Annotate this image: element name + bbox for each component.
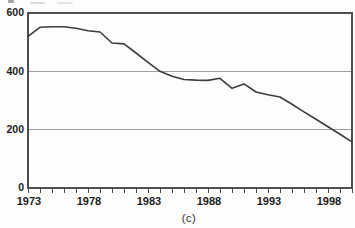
x-tick-label: 1983 <box>137 195 161 207</box>
x-tick-label: 1993 <box>257 195 281 207</box>
line-chart-figure: 0200400600197319781983198819931998 (c) <box>0 0 355 228</box>
y-tick-label: 0 <box>18 181 24 193</box>
x-tick-label: 1988 <box>197 195 221 207</box>
x-tick-label: 1978 <box>77 195 101 207</box>
subfigure-caption: (c) <box>169 212 209 224</box>
chart-canvas: 0200400600197319781983198819931998 <box>0 0 355 228</box>
y-tick-label: 200 <box>6 123 24 135</box>
data-line-series <box>28 27 352 142</box>
x-tick-label: 1998 <box>317 195 341 207</box>
y-tick-label: 600 <box>6 6 24 18</box>
plot-frame <box>28 13 352 188</box>
y-tick-label: 400 <box>6 65 24 77</box>
x-tick-label: 1973 <box>17 195 41 207</box>
